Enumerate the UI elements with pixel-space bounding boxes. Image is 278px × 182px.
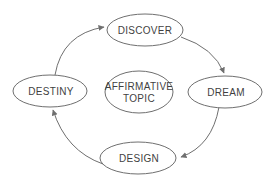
edge-dream-to-design [181, 107, 219, 157]
node-affirmative-topic: AFFIRMATIVE TOPIC [105, 71, 174, 113]
discover-label: DISCOVER [118, 25, 173, 36]
edge-discover-to-dream [181, 37, 224, 73]
affirmative-topic-ellipse [105, 71, 173, 113]
edge-design-to-destiny [53, 110, 103, 164]
node-design: DESIGN [100, 142, 176, 174]
node-destiny: DESTINY [13, 75, 87, 107]
node-discover: DISCOVER [107, 14, 183, 46]
dream-label: DREAM [207, 87, 245, 98]
cycle-diagram-svg: DISCOVER DREAM DESIGN DESTINY AFFIRMATIV… [0, 0, 278, 182]
node-dream: DREAM [188, 76, 262, 108]
edge-destiny-to-discover [55, 27, 104, 75]
design-label: DESIGN [119, 153, 159, 164]
affirmative-topic-label-line1: AFFIRMATIVE [105, 81, 174, 92]
destiny-label: DESTINY [28, 86, 73, 97]
affirmative-topic-label-line2: TOPIC [123, 93, 155, 104]
cycle-diagram: DISCOVER DREAM DESIGN DESTINY AFFIRMATIV… [0, 0, 278, 182]
